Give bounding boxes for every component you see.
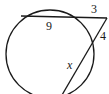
label-external-segment-side: 4 <box>100 29 106 43</box>
label-external-segment-top: 3 <box>91 2 97 16</box>
diagram-canvas: 9 3 4 x <box>0 0 109 94</box>
label-chord-segment: 9 <box>46 19 52 33</box>
horizontal-secant <box>21 16 107 18</box>
label-unknown-segment: x <box>66 58 73 72</box>
